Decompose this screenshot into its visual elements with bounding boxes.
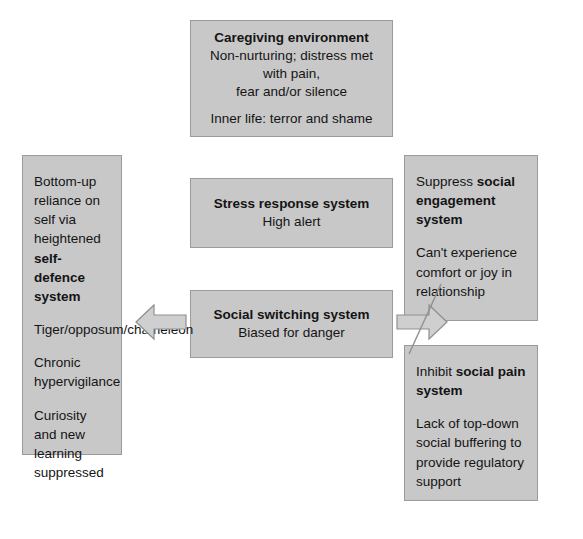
engagement-paragraph-1: Suppress social engagement system bbox=[416, 172, 526, 229]
box-self-defence-system: Bottom-up reliance on self via heightene… bbox=[22, 155, 122, 455]
pain-plain-text: Inhibit bbox=[416, 364, 456, 379]
arrow-left-block-icon bbox=[132, 296, 190, 348]
pain-paragraph-1: Inhibit social pain system bbox=[416, 362, 526, 400]
caregiving-line-2: fear and/or silence bbox=[236, 83, 347, 101]
switching-heading: Social switching system bbox=[213, 306, 369, 324]
box-social-switching-system: Social switching system Biased for dange… bbox=[190, 290, 393, 358]
caregiving-line-3: Inner life: terror and shame bbox=[210, 110, 372, 128]
self-defence-paragraph-1: Bottom-up reliance on self via heightene… bbox=[34, 172, 110, 306]
stress-subtitle: High alert bbox=[263, 213, 321, 231]
box-social-pain-system: Inhibit social pain system Lack of top-d… bbox=[404, 345, 538, 501]
self-defence-plain-text: Bottom-up reliance on self via heightene… bbox=[34, 174, 101, 246]
box-caregiving-environment: Caregiving environment Non-nurturing; di… bbox=[190, 20, 393, 137]
switching-subtitle: Biased for danger bbox=[238, 324, 345, 342]
diagram-canvas: Caregiving environment Non-nurturing; di… bbox=[0, 0, 583, 539]
arrow-right-shape bbox=[393, 296, 451, 348]
engagement-paragraph-2: Can't experience comfort or joy in relat… bbox=[416, 243, 526, 300]
engagement-plain-text: Suppress bbox=[416, 174, 477, 189]
stress-heading: Stress response system bbox=[214, 195, 369, 213]
caregiving-heading: Caregiving environment bbox=[214, 29, 369, 47]
self-defence-paragraph-3: Chronic hypervigilance bbox=[34, 353, 110, 391]
caregiving-line-1: Non-nurturing; distress met with pain, bbox=[201, 47, 382, 83]
pain-paragraph-2: Lack of top-down social buffering to pro… bbox=[416, 414, 526, 491]
self-defence-paragraph-4: Curiosity and new learning suppressed bbox=[34, 406, 110, 483]
arrow-left-shape bbox=[132, 296, 190, 348]
self-defence-paragraph-2: Tiger/opposum/chameleon bbox=[34, 320, 110, 339]
box-stress-response-system: Stress response system High alert bbox=[190, 178, 393, 248]
self-defence-bold-text: self-defence system bbox=[34, 251, 85, 304]
arrow-right-block-icon bbox=[393, 296, 451, 348]
